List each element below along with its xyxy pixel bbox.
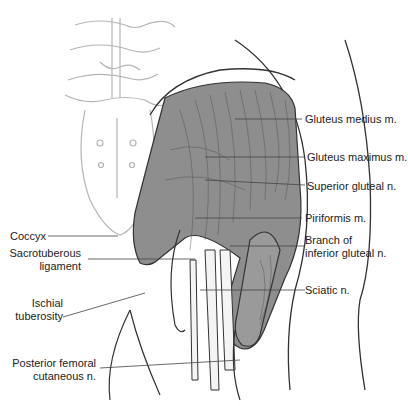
label-superior-gluteal-nerve: Superior gluteal n. bbox=[307, 180, 396, 193]
lumbar-spine bbox=[65, 18, 175, 106]
gluteal-illustration bbox=[0, 0, 408, 406]
label-cutaneous-nerve: cutaneous n. bbox=[33, 370, 96, 383]
label-tuberosity: tuberosity bbox=[15, 310, 63, 323]
label-posterior-femoral: Posterior femoral bbox=[12, 357, 96, 370]
label-sciatic-nerve: Sciatic n. bbox=[305, 284, 350, 297]
label-piriformis: Piriformis m. bbox=[305, 212, 366, 225]
nerves bbox=[190, 250, 235, 390]
label-coccyx: Coccyx bbox=[10, 230, 46, 243]
label-sacrotuberous: Sacrotuberous bbox=[9, 247, 81, 260]
label-branch-of: Branch of bbox=[305, 234, 352, 247]
label-inferior-gluteal-nerve: inferior gluteal n. bbox=[305, 247, 386, 260]
label-gluteus-maximus: Gluteus maximus m. bbox=[307, 151, 407, 164]
label-ischial: Ischial bbox=[32, 297, 63, 310]
label-gluteus-medius: Gluteus medius m. bbox=[305, 113, 397, 126]
anatomical-diagram: Gluteus medius m. Gluteus maximus m. Sup… bbox=[0, 0, 408, 406]
label-ligament: ligament bbox=[39, 260, 81, 273]
